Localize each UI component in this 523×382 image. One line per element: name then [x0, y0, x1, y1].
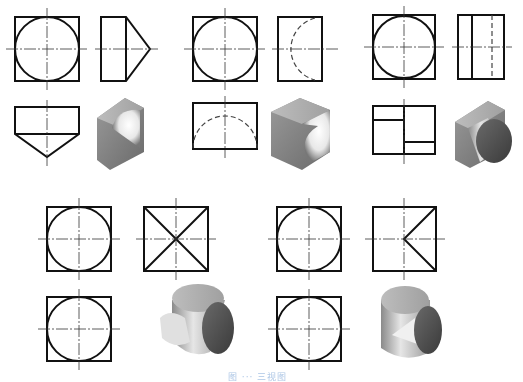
group-5-cylinder-intersection	[268, 198, 445, 370]
three-view-drawings-figure	[0, 0, 523, 382]
isometric-crossing-cylinders	[160, 284, 234, 354]
isometric-hemisphere-block	[271, 98, 330, 170]
isometric-v-block	[97, 98, 144, 170]
figure-caption: 图 ··· 三视图	[228, 370, 287, 382]
group-2-hemisphere-block	[184, 8, 340, 170]
isometric-cylinder-t	[381, 286, 442, 358]
isometric-plate-cylinder	[455, 101, 512, 168]
group-4-crossing-cylinders	[38, 198, 234, 370]
group-3-plate-cylinder	[364, 6, 512, 168]
group-1-v-block	[6, 8, 158, 170]
